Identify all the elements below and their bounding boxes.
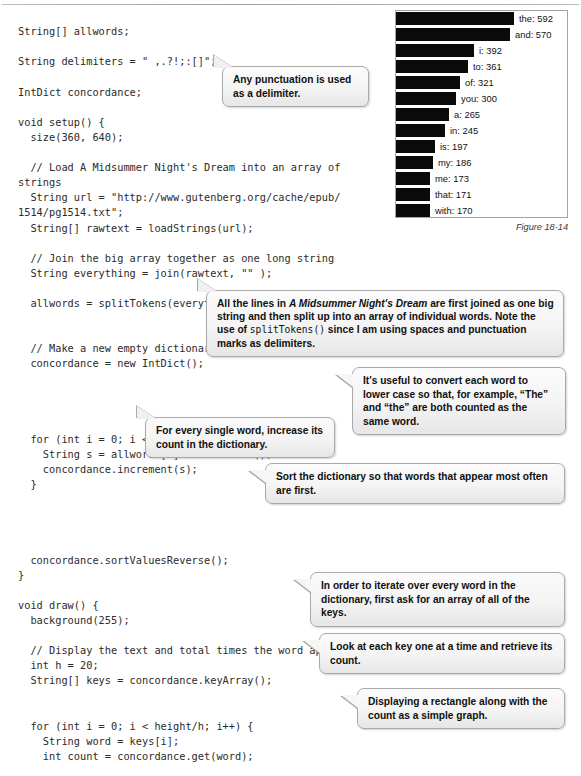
chart-bar-row: is: 197 (396, 139, 567, 155)
chart-bar-row: my: 186 (396, 155, 567, 171)
chart-bar-label: that: 171 (435, 188, 472, 201)
chart-bar-row: in: 245 (396, 123, 567, 139)
chart-bar-row: me: 173 (396, 171, 567, 187)
chart-bar (396, 60, 468, 73)
callout-lowercase-tail (336, 374, 353, 387)
chart-bar-row: and: 570 (396, 27, 567, 43)
code-line (18, 537, 393, 552)
chart-bar-row: you: 300 (396, 91, 567, 107)
chart-bar (396, 188, 430, 201)
code-line (18, 402, 393, 417)
callout-display-tail (341, 695, 358, 708)
code-line: String[] allwords; (18, 24, 393, 39)
code-line: // Join the big array together as one lo… (18, 251, 393, 266)
chart-bar-row: that: 171 (396, 187, 567, 203)
callout-punctuation-line1: Any punctuation is used (233, 73, 359, 87)
chart-bar-row: a: 265 (396, 107, 567, 123)
code-line: concordance.sortValuesReverse(); (18, 553, 393, 568)
chart-bar-label: is: 197 (440, 140, 468, 153)
callout-lowercase-text: It's useful to convert each word to lowe… (363, 375, 548, 427)
callout-punctuation-line2: as a delimiter. (233, 87, 359, 101)
chart-bar-label: you: 300 (461, 92, 497, 105)
code-line (18, 507, 393, 522)
callout-joined-pre: All the lines in (217, 298, 289, 309)
chart-bar-label: in: 245 (450, 124, 478, 137)
figure-caption: Figure 18-14 (395, 222, 568, 232)
chart-bar (396, 172, 430, 185)
code-line: for (int i = 0; i < height/h; i++) { (18, 719, 393, 734)
callout-joined: All the lines in A Midsummer Night's Dre… (206, 290, 564, 357)
code-line: concordance = new IntDict(); (18, 356, 393, 371)
chart-bar (396, 92, 456, 105)
code-line (18, 236, 393, 251)
code-line (18, 387, 393, 402)
chart-bar-label: to: 361 (473, 60, 502, 73)
callout-increase-count: For every single word, increase its coun… (145, 417, 335, 458)
callout-display-line1: Displaying a rectangle along with the (368, 695, 555, 709)
header-rule (2, 4, 579, 5)
chart-bar-row: with: 170 (396, 203, 567, 218)
chart-bar-row: of: 321 (396, 75, 567, 91)
callout-joined-tail (198, 279, 218, 292)
callout-retrieve-line2: count. (330, 654, 555, 668)
code-line (18, 704, 393, 719)
chart-bar (396, 12, 514, 25)
callout-lowercase: It's useful to convert each word to lowe… (352, 367, 566, 435)
chart-bar (396, 28, 510, 41)
code-line: // Load A Midsummer Night's Dream into a… (18, 160, 393, 175)
chart-bar (396, 108, 449, 121)
code-line: strings (18, 175, 393, 190)
code-line: void setup() { (18, 115, 393, 130)
callout-increase-count-tail (137, 406, 157, 419)
code-line: String url = "http://www.gutenberg.org/c… (18, 190, 393, 205)
code-line (18, 688, 393, 703)
callout-punctuation-tail (214, 55, 234, 68)
callout-iterate-tail (294, 579, 311, 592)
callout-retrieve-line1: Look at each key one at a time and retri… (330, 640, 555, 654)
chart-bar (396, 124, 445, 137)
chart-bar-label: of: 321 (465, 76, 494, 89)
chart-bar-label: the: 592 (519, 12, 553, 25)
callout-retrieve-tail (303, 640, 320, 653)
chart-bar-label: i: 392 (479, 44, 502, 57)
callout-increase-count-line2: count in the dictionary. (156, 438, 325, 452)
code-line: int count = concordance.get(word); (18, 749, 393, 764)
chart-bar-row: i: 392 (396, 43, 567, 59)
chart-bar (396, 76, 460, 89)
chart-bar (396, 156, 433, 169)
chart-bar (396, 204, 430, 217)
callout-iterate-line1: In order to iterate over every word in t… (321, 579, 555, 593)
code-line: String word = keys[i]; (18, 734, 393, 749)
code-line (18, 39, 393, 54)
code-line (18, 145, 393, 160)
callout-retrieve: Look at each key one at a time and retri… (319, 633, 565, 674)
callout-iterate-line2: dictionary, first ask for an array of al… (321, 593, 555, 620)
callout-display: Displaying a rectangle along with the co… (357, 688, 565, 729)
callout-display-line2: count as a simple graph. (368, 709, 555, 723)
code-line: String[] keys = concordance.keyArray(); (18, 673, 393, 688)
chart-bar (396, 44, 474, 57)
code-line: String[] rawtext = loadStrings(url); (18, 221, 393, 236)
callout-punctuation: Any punctuation is used as a delimiter. (222, 66, 369, 107)
code-line: 1514/pg1514.txt"; (18, 205, 393, 220)
word-frequency-chart: the: 592and: 570i: 392to: 361of: 321you:… (395, 10, 568, 218)
chart-bar-label: with: 170 (435, 204, 473, 217)
code-line (18, 522, 393, 537)
code-line: size(360, 640); (18, 130, 393, 145)
callout-sort-tail (249, 470, 266, 483)
chart-bar-row: to: 361 (396, 59, 567, 75)
callout-increase-count-line1: For every single word, increase its (156, 424, 325, 438)
callout-joined-code: splitTokens() (250, 324, 325, 335)
chart-bar-label: my: 186 (438, 156, 471, 169)
chart-bar-label: a: 265 (454, 108, 480, 121)
callout-sort: Sort the dictionary so that words that a… (265, 463, 565, 504)
callout-sort-text: Sort the dictionary so that words that a… (276, 471, 548, 496)
chart-bar (396, 140, 435, 153)
callout-joined-title: A Midsummer Night's Dream (289, 298, 427, 309)
page-canvas: String[] allwords; String delimiters = "… (0, 0, 581, 776)
chart-bar-label: and: 570 (515, 28, 552, 41)
code-line (18, 764, 393, 776)
chart-bar-row: the: 592 (396, 11, 567, 27)
chart-bar-label: me: 173 (435, 172, 469, 185)
callout-iterate: In order to iterate over every word in t… (310, 572, 565, 627)
